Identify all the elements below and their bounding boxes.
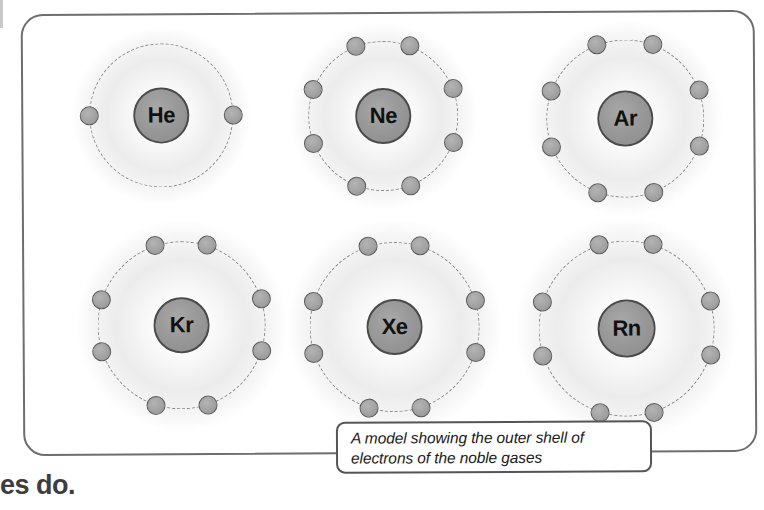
electron-dot <box>444 79 463 98</box>
electron-dot <box>252 289 271 308</box>
electron-dot <box>542 81 561 100</box>
electron-dot <box>701 346 720 365</box>
electron-dot <box>252 341 271 360</box>
element-symbol-label: Kr <box>170 314 194 336</box>
electron-dot <box>401 176 420 195</box>
electron-dot <box>224 105 243 124</box>
electron-dot <box>304 292 323 311</box>
electron-dot <box>147 396 166 415</box>
electron-dot <box>346 37 365 56</box>
electron-dot <box>590 403 609 422</box>
electron-dot <box>304 80 323 99</box>
element-symbol-label: Rn <box>612 317 640 339</box>
electron-dot <box>358 237 377 256</box>
electron-dot <box>80 106 99 125</box>
nucleus-xe: Xe <box>366 299 422 355</box>
electron-dot <box>690 137 709 156</box>
electron-dot <box>400 36 419 55</box>
caption-text: A model showing the outer shell of elect… <box>351 427 638 468</box>
element-symbol-label: Ar <box>614 107 638 129</box>
page-edge-sliver <box>0 0 3 28</box>
electron-dot <box>587 35 606 54</box>
nucleus-ne: Ne <box>355 88 411 144</box>
electron-dot <box>644 35 663 54</box>
element-symbol-label: Xe <box>382 316 408 338</box>
electron-dot <box>645 403 664 422</box>
caption-callout-box: A model showing the outer shell of elect… <box>336 420 652 473</box>
electron-dot <box>534 347 553 366</box>
electron-dot <box>146 236 165 255</box>
electron-dot <box>197 236 216 255</box>
electron-dot <box>411 236 430 255</box>
atom-grid: HeNeArKrXeRn <box>21 10 758 456</box>
electron-dot <box>347 177 366 196</box>
electron-dot <box>304 134 323 153</box>
electron-dot <box>689 80 708 99</box>
electron-dot <box>444 133 463 152</box>
electron-dot <box>542 138 561 157</box>
electron-dot <box>644 183 663 202</box>
electron-dot <box>588 183 607 202</box>
nucleus-he: He <box>133 87 189 143</box>
page-text-fragment: es do. <box>0 470 75 501</box>
electron-dot <box>92 290 111 309</box>
electron-dot <box>466 343 485 362</box>
electron-dot <box>412 398 431 417</box>
electron-dot <box>533 292 552 311</box>
element-symbol-label: He <box>148 104 175 126</box>
element-symbol-label: Ne <box>370 105 397 127</box>
caption-line-2: electrons of the noble gases <box>351 449 542 467</box>
electron-dot <box>198 395 217 414</box>
nucleus-kr: Kr <box>153 297 209 353</box>
electron-dot <box>644 235 663 254</box>
electron-dot <box>359 398 378 417</box>
electron-dot <box>92 342 111 361</box>
caption-line-1: A model showing the outer shell of <box>351 429 584 447</box>
electron-dot <box>701 291 720 310</box>
electron-dot <box>589 235 608 254</box>
nucleus-ar: Ar <box>597 90 653 146</box>
nucleus-rn: Rn <box>597 299 655 357</box>
electron-dot <box>466 291 485 310</box>
electron-dot <box>304 344 323 363</box>
